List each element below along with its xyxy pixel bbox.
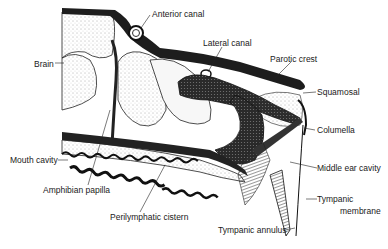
label-tympanic-membrane-line1: Tympanic [317,195,353,204]
anterior-canal-shape [129,26,143,40]
brain-region-lower [62,54,97,110]
mouth-epithelium-fold [70,166,165,187]
label-squamosal: Squamosal [317,88,360,97]
label-mouth-cavity: Mouth cavity [10,156,58,165]
label-columella: Columella [317,126,355,135]
label-amphibian-papilla: Amphibian papilla [43,186,110,195]
label-brain: Brain [34,60,54,69]
label-middle-ear-cavity: Middle ear cavity [317,164,381,173]
label-perilymphatic-cistern: Perilymphatic cistern [110,213,188,222]
brain-region-upper [62,12,115,58]
label-tympanic-annulus: Tympanic annulus [218,226,287,235]
label-anterior-canal: Anterior canal [152,10,204,19]
capsule-wall [112,40,117,145]
label-lateral-canal: Lateral canal [203,39,252,48]
tympanic-membrane-shape [296,125,303,236]
mouth-epithelium-lower [162,188,218,200]
label-parotic-crest: Parotic crest [270,55,317,64]
ear-cross-section-diagram: Anterior canal Brain Lateral canal Parot… [0,0,388,249]
label-tympanic-membrane-line2: membrane [340,207,381,216]
